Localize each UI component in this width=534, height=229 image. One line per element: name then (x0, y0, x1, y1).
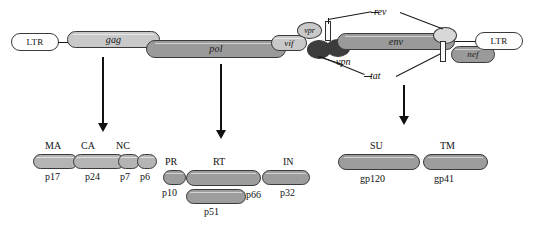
gene-ltr-right-label: LTR (491, 37, 508, 46)
gene-ltr-left: LTR (11, 33, 59, 51)
product-ca-name: CA (81, 141, 95, 151)
label-rev: rev (374, 7, 386, 17)
gene-ltr-right: LTR (475, 32, 523, 50)
gene-gag-label: gag (106, 35, 122, 45)
product-tm-size: gp41 (434, 174, 454, 184)
gene-pol-label: pol (209, 44, 222, 54)
product-tm-name: TM (440, 141, 455, 151)
product-p6-capsule (137, 154, 157, 169)
product-rt-size: p66 (246, 190, 261, 200)
product-su-size: gp120 (360, 174, 385, 184)
gene-nef-label: nef (467, 50, 479, 59)
product-rt-capsule (186, 170, 261, 186)
gene-env-label: env (389, 37, 403, 47)
product-pr-size: p10 (162, 188, 177, 198)
product-in-capsule (262, 170, 310, 185)
rev-leader-right-diagonal (400, 12, 443, 29)
product-p51-size: p51 (204, 207, 219, 217)
gag-processing-arrow (97, 57, 109, 132)
label-tat: tat (370, 71, 381, 81)
product-pr-capsule (163, 170, 186, 185)
gene-vpr: vpr (297, 22, 322, 39)
product-nc-size: p7 (120, 172, 130, 182)
pol-processing-arrow (215, 64, 227, 139)
product-ma-capsule (33, 154, 78, 169)
hiv-genome-diagram: LTR gag pol vif vpr env nef LTR (0, 0, 534, 229)
gene-ltr-left-label: LTR (27, 38, 44, 47)
product-su-name: SU (370, 141, 383, 151)
product-ma-name: MA (45, 141, 61, 151)
tat-leader-right-diagonal (396, 53, 441, 77)
product-ma-size: p17 (45, 172, 60, 182)
env-processing-arrow (398, 85, 410, 125)
product-nc-name: NC (116, 141, 130, 151)
product-su-capsule (338, 154, 420, 170)
rev-leader-left-diagonal (328, 11, 372, 20)
product-rt-name: RT (213, 157, 225, 167)
exon-marker-right (440, 41, 446, 62)
product-p51-capsule (186, 189, 246, 204)
product-pr-name: PR (165, 157, 177, 167)
gene-vif-label: vif (284, 39, 294, 48)
label-vpn: vpn (336, 57, 350, 67)
gene-pol: pol (146, 40, 286, 58)
product-in-name: IN (283, 157, 294, 167)
product-tm-capsule (423, 154, 488, 170)
product-p6-size: p6 (140, 172, 150, 182)
product-in-size: p32 (280, 188, 295, 198)
product-ca-size: p24 (85, 172, 100, 182)
gene-vpr-label: vpr (304, 27, 315, 35)
exon-marker-left (325, 21, 331, 41)
